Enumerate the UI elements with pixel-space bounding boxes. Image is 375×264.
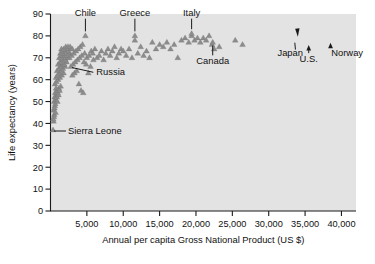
x-axis-tick-label: 20,000 [182,219,210,229]
y-axis-tick-label: 20 [33,163,43,173]
annotation-label-norway: Norway [331,47,363,58]
annotation-label-sierra-leone: Sierra Leone [68,125,122,136]
x-axis-tick-label: 15,000 [146,219,174,229]
chart-canvas: 01020304050607080905,00010,00015,00020,0… [0,0,375,264]
y-axis-tick-label: 60 [33,75,43,85]
x-axis-tick-label: 40,000 [327,219,355,229]
x-axis-tick-label: 5,000 [75,219,98,229]
y-axis-tick-label: 50 [33,97,43,107]
y-axis-tick-label: 90 [33,9,43,19]
x-axis-tick-label: 30,000 [255,219,283,229]
x-axis-tick-label: 35,000 [291,219,319,229]
annotation-label-russia: Russia [96,66,125,77]
y-axis-tick-label: 30 [33,141,43,151]
y-axis-tick-label: 0 [38,206,43,216]
y-axis-tick-label: 10 [33,184,43,194]
x-axis-tick-label: 25,000 [218,219,246,229]
y-axis-tick-label: 70 [33,53,43,63]
scatter-plot-figure: 01020304050607080905,00010,00015,00020,0… [0,0,375,264]
x-axis-title: Annual per capita Gross National Product… [102,234,304,245]
annotation-label-italy: Italy [183,7,201,18]
annotation-label-canada: Canada [196,55,230,66]
plot-area-background [51,14,357,211]
y-axis-tick-label: 80 [33,31,43,41]
x-axis-tick-label: 10,000 [109,219,137,229]
annotation-label-u-s-: U.S. [300,53,318,64]
y-axis-title: Life expectancy (years) [6,64,17,161]
annotation-label-greece: Greece [120,7,151,18]
annotation-label-chile: Chile [75,7,96,18]
y-axis-tick-label: 40 [33,119,43,129]
